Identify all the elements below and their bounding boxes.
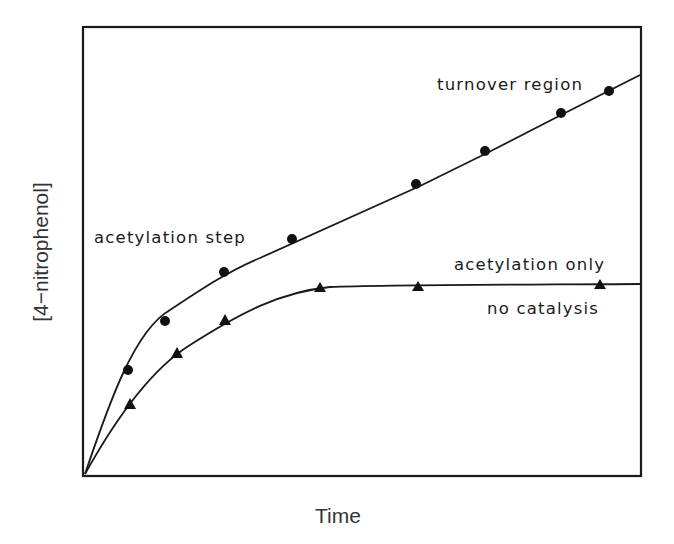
x-axis-label: Time — [315, 504, 361, 527]
annotation-no-catalysis: no catalysis — [487, 299, 599, 318]
data-point-circle — [160, 316, 170, 326]
annotation-acetylation-step: acetylation step — [94, 228, 246, 247]
annotation-turnover-region: turnover region — [437, 75, 583, 94]
kinetics-chart: turnover region acetylation step acetyla… — [0, 0, 674, 544]
plot-frame — [83, 27, 641, 476]
data-point-circle — [287, 234, 297, 244]
data-point-circle — [411, 179, 421, 189]
y-axis-label: [4−nitrophenol] — [29, 182, 52, 322]
curve-turnover — [85, 75, 640, 474]
data-point-triangle — [171, 347, 183, 358]
data-point-triangle — [219, 314, 231, 325]
data-point-circle — [556, 108, 566, 118]
data-point-circle — [219, 267, 229, 277]
data-point-circle — [480, 146, 490, 156]
data-point-circle — [604, 86, 614, 96]
data-point-circle — [123, 365, 133, 375]
annotation-acetylation-only: acetylation only — [454, 255, 605, 274]
